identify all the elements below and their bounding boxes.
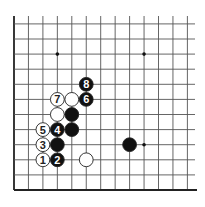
stone-circle xyxy=(65,108,79,122)
stone-circle xyxy=(50,138,64,152)
white-stone xyxy=(79,153,93,167)
white-stone-7: 7 xyxy=(50,93,64,107)
black-stone-6: 6 xyxy=(79,93,93,107)
black-stone-8: 8 xyxy=(79,77,93,91)
black-stone xyxy=(65,108,79,122)
stone-circle xyxy=(123,138,137,152)
move-number: 6 xyxy=(83,93,89,105)
move-number: 1 xyxy=(40,154,46,166)
stone-circle xyxy=(65,93,79,107)
stone-circle xyxy=(65,123,79,137)
stone-circle xyxy=(79,153,93,167)
move-number: 4 xyxy=(54,124,61,136)
black-stone xyxy=(123,138,137,152)
black-stone xyxy=(65,123,79,137)
black-stone-2: 2 xyxy=(50,153,64,167)
move-number: 8 xyxy=(83,78,89,90)
white-stone xyxy=(50,108,64,122)
move-number: 5 xyxy=(40,124,46,136)
white-stone-1: 1 xyxy=(36,153,50,167)
black-stone xyxy=(50,138,64,152)
white-stone xyxy=(65,93,79,107)
go-board-diagram: 12345678 xyxy=(0,0,205,207)
stone-circle xyxy=(50,108,64,122)
white-stone-3: 3 xyxy=(36,138,50,152)
move-number: 7 xyxy=(54,93,60,105)
move-number: 2 xyxy=(54,154,60,166)
star-point xyxy=(56,52,60,56)
star-point xyxy=(142,52,146,56)
star-point xyxy=(142,143,146,147)
white-stone-5: 5 xyxy=(36,123,50,137)
black-stone-4: 4 xyxy=(50,123,64,137)
move-number: 3 xyxy=(40,139,46,151)
